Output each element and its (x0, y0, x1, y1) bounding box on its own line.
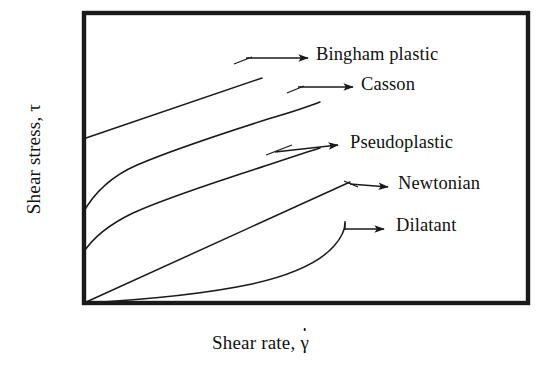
x-axis-label: Shear rate, γ (212, 332, 309, 354)
x-axis-label-text: Shear rate, (212, 332, 300, 353)
series-label-bingham-plastic: Bingham plastic (316, 44, 438, 65)
series-label-pseudoplastic: Pseudoplastic (350, 132, 453, 153)
series-label-dilatant: Dilatant (396, 215, 456, 236)
rheology-figure: Bingham plastic Casson Pseudoplastic New… (0, 0, 556, 373)
x-axis-label-symbol: γ (300, 332, 309, 354)
y-axis-label: Shear stress, τ (23, 79, 45, 239)
plot-frame (84, 13, 528, 303)
series-label-casson: Casson (361, 74, 415, 95)
dot-accent-icon (303, 328, 306, 331)
series-label-newtonian: Newtonian (398, 173, 480, 194)
gamma-symbol: γ (300, 332, 309, 353)
